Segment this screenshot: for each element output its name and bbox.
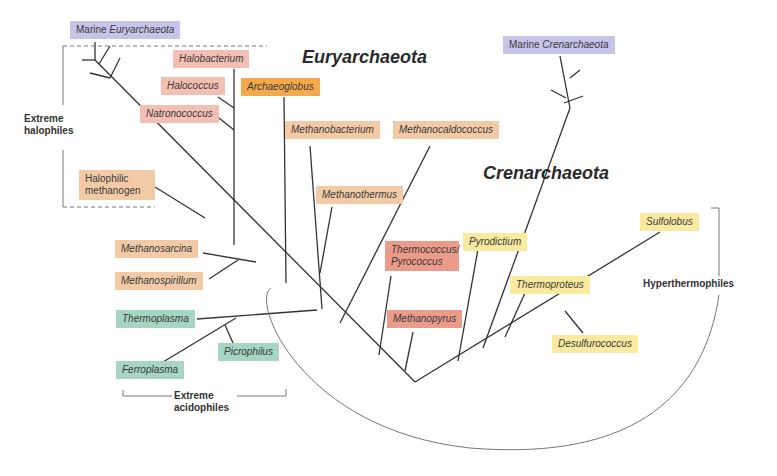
taxon-archaeoglobus: Archaeoglobus	[241, 78, 320, 96]
taxon-methanobacterium: Methanobacterium	[285, 121, 380, 139]
taxon-methanopyrus: Methanopyrus	[387, 310, 462, 328]
taxon-picrophilus: Picrophilus	[218, 343, 279, 361]
extreme-acidophiles-label: Extreme acidophiles	[174, 390, 234, 414]
taxon-pyrodictium: Pyrodictium	[463, 233, 527, 251]
taxon-halococcus: Halococcus	[161, 77, 225, 95]
extreme-halophiles-label: Extreme halophiles	[24, 113, 72, 137]
taxon-thermoproteus: Thermoproteus	[510, 276, 590, 294]
phylogenetic-tree-lines	[0, 0, 777, 476]
hyperthermophiles-label: Hyperthermophiles	[643, 278, 734, 290]
taxon-methanothermus: Methanothermus	[316, 186, 403, 204]
taxon-desulfurococcus: Desulfurococcus	[552, 335, 638, 353]
taxon-methanospirillum: Methanospirillum	[115, 272, 203, 290]
taxon-ferroplasma: Ferroplasma	[116, 361, 184, 379]
crenarchaeota-title: Crenarchaeota	[483, 163, 609, 184]
euryarchaeota-title: Euryarchaeota	[302, 47, 427, 68]
taxon-natronococcus: Natronococcus	[140, 105, 219, 123]
taxon-halophilic-methanogen: Halophilic methanogen	[79, 170, 155, 200]
taxon-thermoplasma: Thermoplasma	[116, 310, 195, 328]
taxon-methanocaldococcus: Methanocaldococcus	[393, 121, 499, 139]
taxon-marine-crenarchaeota: Marine Crenarchaeota	[503, 36, 615, 54]
taxon-marine-euryarchaeota: Marine Euryarchaeota	[70, 21, 180, 39]
taxon-thermococcus-pyrococcus: Thermococcus/ Pyrococcus	[385, 241, 459, 271]
taxon-methanosarcina: Methanosarcina	[115, 240, 198, 258]
taxon-sulfolobus: Sulfolobus	[640, 213, 699, 231]
taxon-halobacterium: Halobacterium	[173, 50, 249, 68]
